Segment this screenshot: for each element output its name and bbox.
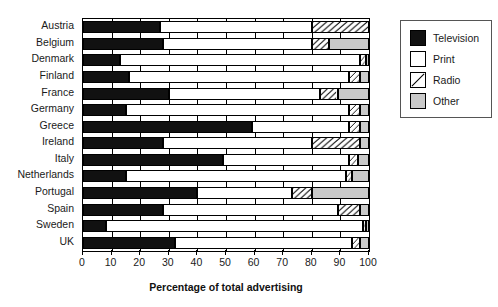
bar-segment-radio: [349, 154, 358, 166]
x-axis-tick-mark: [339, 250, 340, 255]
x-axis-tick-label: 90: [334, 256, 346, 268]
y-axis-tick-label: Spain: [47, 203, 74, 214]
x-axis-tick-label: 80: [305, 256, 317, 268]
bar-segment-radio: [312, 38, 329, 50]
bar-segment-radio: [352, 237, 361, 249]
bar-segment-television: [83, 88, 169, 100]
hatch-pattern-icon: [313, 138, 360, 148]
bar-segment-television: [83, 71, 129, 83]
bar-segment-print: [163, 204, 337, 216]
bar-segment-print: [120, 54, 360, 66]
hatch-pattern-icon: [339, 205, 360, 215]
x-axis: 0102030405060708090100: [82, 250, 370, 272]
y-axis-tick-label: Italy: [55, 153, 74, 164]
x-axis-tick-mark: [311, 250, 312, 255]
hatch-pattern-icon: [364, 221, 365, 231]
bar-segment-radio: [338, 204, 361, 216]
bar-segment-print: [175, 237, 352, 249]
hatch-pattern-icon: [411, 73, 425, 87]
bar-segment-radio: [312, 21, 369, 33]
hatch-pattern-icon: [313, 39, 328, 49]
x-axis-tick-label: 60: [248, 256, 260, 268]
solid-black-swatch: [410, 30, 426, 46]
bar-segment-other: [360, 104, 369, 116]
bar-segment-radio: [292, 187, 312, 199]
bar-segment-television: [83, 21, 160, 33]
legend-label: Other: [433, 94, 459, 108]
hatch-pattern-icon: [293, 188, 311, 198]
bar-segment-television: [83, 38, 163, 50]
y-axis-tick-label: Sweden: [36, 219, 74, 230]
bar-segment-other: [352, 170, 369, 182]
bar-segment-print: [106, 220, 363, 232]
x-axis-tick-mark: [225, 250, 226, 255]
legend-item-radio: Radio: [410, 72, 490, 88]
bar-segment-other: [366, 220, 369, 232]
y-axis-tick-label: Austria: [41, 20, 74, 31]
x-axis-tick-mark: [82, 250, 83, 255]
bar-segment-television: [83, 154, 223, 166]
bar-segment-print: [197, 187, 291, 199]
bar-segment-other: [360, 71, 369, 83]
hatch-pattern-icon: [361, 55, 365, 65]
bar-segment-print: [223, 154, 349, 166]
bar-segment-other: [338, 88, 369, 100]
bar-segment-other: [358, 154, 369, 166]
bar-segment-print: [126, 104, 349, 116]
y-axis-tick-label: Denmark: [31, 53, 74, 64]
bar-segment-other: [360, 137, 369, 149]
y-axis-tick-label: Ireland: [42, 136, 74, 147]
y-axis-tick-label: Portugal: [35, 186, 74, 197]
bar-segment-print: [129, 71, 349, 83]
x-axis-tick-mark: [168, 250, 169, 255]
bar-segment-other: [360, 237, 369, 249]
hatch-pattern-icon: [350, 155, 357, 165]
y-axis-tick-label: France: [41, 87, 74, 98]
x-axis-tick-label: 50: [219, 256, 231, 268]
bar-segment-television: [83, 204, 163, 216]
legend-item-television: Television: [410, 30, 490, 46]
legend-label: Radio: [433, 73, 460, 87]
plot-inner: [83, 19, 369, 251]
bar-segment-television: [83, 220, 106, 232]
hatch-pattern-icon: [347, 171, 351, 181]
bar-segment-other: [329, 38, 369, 50]
x-axis-tick-label: 20: [133, 256, 145, 268]
legend-item-print: Print: [410, 51, 490, 67]
bar-segment-other: [360, 204, 369, 216]
x-axis-tick-label: 70: [276, 256, 288, 268]
hatch-pattern-icon: [353, 238, 360, 248]
hatch-pattern-icon: [321, 89, 336, 99]
x-axis-tick-label: 0: [79, 256, 85, 268]
x-axis-tick-label: 10: [105, 256, 117, 268]
legend-label: Print: [433, 52, 455, 66]
x-axis-tick-mark: [282, 250, 283, 255]
x-axis-tick-mark: [196, 250, 197, 255]
bar-segment-radio: [312, 137, 361, 149]
legend-label: Television: [433, 31, 479, 45]
gray-swatch: [410, 93, 426, 109]
hatch-pattern-icon: [350, 122, 359, 132]
bar-segment-other: [360, 121, 369, 133]
bar-segment-print: [163, 38, 312, 50]
bar-segment-television: [83, 187, 197, 199]
hatch-pattern-icon: [350, 105, 359, 115]
bar-segment-print: [252, 121, 349, 133]
x-axis-tick-mark: [254, 250, 255, 255]
bar-segment-television: [83, 170, 126, 182]
white-swatch: [410, 51, 426, 67]
bar-segment-television: [83, 104, 126, 116]
hatch-pattern-icon: [350, 72, 359, 82]
legend-item-other: Other: [410, 93, 490, 109]
bar-segment-print: [163, 137, 312, 149]
y-axis-tick-label: Germany: [31, 103, 74, 114]
bar-segment-print: [160, 21, 312, 33]
x-axis-tick-label: 100: [359, 256, 377, 268]
bar-segment-radio: [320, 88, 337, 100]
bar-segment-print: [126, 170, 346, 182]
hatch-pattern-icon: [313, 22, 368, 32]
x-axis-tick-label: 40: [191, 256, 203, 268]
bar-segment-radio: [349, 121, 360, 133]
x-axis-tick-mark: [139, 250, 140, 255]
bar-segment-radio: [349, 71, 360, 83]
